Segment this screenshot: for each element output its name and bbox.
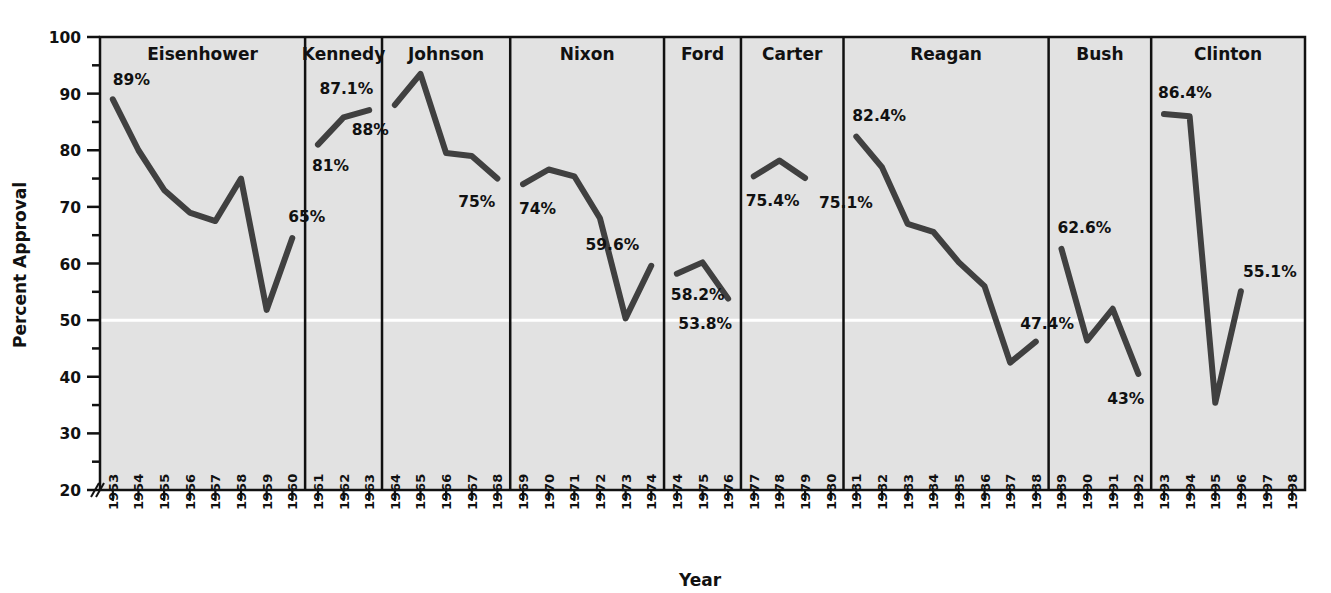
x-tick-label-1981: 1981 [849, 474, 864, 510]
x-tick-label-1959: 1959 [260, 474, 275, 510]
point-label-nixon-1: 59.6% [585, 236, 639, 254]
x-tick-label-1971: 1971 [567, 474, 582, 510]
x-tick-label-1963: 1963 [362, 474, 377, 510]
panel-title-bush: Bush [1076, 44, 1123, 64]
panel-background-carter [741, 37, 844, 490]
x-tick-label-1960: 1960 [285, 474, 300, 510]
x-tick-label-1992: 1992 [1131, 474, 1146, 510]
point-label-bush-1: 43% [1107, 390, 1145, 408]
x-tick-label-1980: 1980 [824, 474, 839, 510]
panel-background-eisenhower [100, 37, 305, 490]
x-tick-label-1984: 1984 [926, 474, 941, 510]
x-tick-label-1976: 1976 [721, 474, 736, 510]
x-tick-label-1968: 1968 [490, 474, 505, 510]
point-label-nixon-0: 74% [519, 200, 557, 218]
x-tick-label-1967: 1967 [465, 474, 480, 510]
x-tick-label-1965: 1965 [413, 474, 428, 510]
x-tick-label-1961: 1961 [311, 474, 326, 510]
x-tick-label-1977: 1977 [747, 474, 762, 510]
x-tick-label-1962: 1962 [337, 474, 352, 510]
x-tick-label-1982: 1982 [875, 474, 890, 510]
panel-title-kennedy: Kennedy [302, 44, 385, 64]
x-axis-title: Year [678, 570, 722, 590]
x-tick-label-1969: 1969 [516, 474, 531, 510]
x-tick-label-1988: 1988 [1029, 474, 1044, 510]
panel-title-ford: Ford [681, 44, 724, 64]
x-tick-label-1956: 1956 [183, 474, 198, 510]
x-tick-label-1973: 1973 [619, 474, 634, 510]
panel-title-johnson: Johnson [407, 44, 484, 64]
chart-root: 2030405060708090100 19531954195519561957… [0, 0, 1331, 593]
x-tick-label-1975: 1975 [696, 474, 711, 510]
point-label-kennedy-0: 87.1% [319, 80, 373, 98]
y-tick-label: 20 [59, 482, 81, 500]
point-label-clinton-1: 55.1% [1243, 263, 1297, 281]
point-label-bush-0: 62.6% [1057, 219, 1111, 237]
panel-title-nixon: Nixon [560, 44, 615, 64]
panel-titles: EisenhowerKennedyJohnsonNixonFordCarterR… [147, 44, 1262, 64]
x-tick-label-1979: 1979 [798, 474, 813, 510]
x-tick-label-1990: 1990 [1080, 474, 1095, 510]
point-label-clinton-0: 86.4% [1158, 84, 1212, 102]
panel-title-clinton: Clinton [1194, 44, 1262, 64]
panel-title-carter: Carter [762, 44, 823, 64]
x-tick-label-1974: 1974 [644, 474, 659, 510]
x-tick-label-1987: 1987 [1003, 474, 1018, 510]
x-tick-label-1983: 1983 [901, 474, 916, 510]
y-axis: 2030405060708090100 [49, 29, 104, 500]
x-tick-label-1994: 1994 [1183, 474, 1198, 510]
x-tick-label-1970: 1970 [542, 474, 557, 510]
point-label-ford-0: 58.2% [671, 286, 725, 304]
x-tick-label-1954: 1954 [131, 474, 146, 510]
x-tick-label-1964: 1964 [388, 474, 403, 510]
x-tick-label-1998: 1998 [1285, 474, 1300, 510]
x-tick-label-1985: 1985 [952, 474, 967, 510]
x-tick-label-1957: 1957 [208, 474, 223, 510]
approval-small-multiples-chart: 2030405060708090100 19531954195519561957… [0, 0, 1331, 593]
y-tick-label: 40 [59, 369, 81, 387]
y-tick-label: 100 [49, 29, 82, 47]
point-label-johnson-1: 75% [458, 193, 496, 211]
y-tick-label: 70 [59, 199, 81, 217]
x-tick-label-1986: 1986 [978, 474, 993, 510]
panel-background-kennedy [305, 37, 382, 490]
x-tick-label-1997: 1997 [1260, 474, 1275, 510]
panel-background-johnson [382, 37, 510, 490]
x-tick-label-1966: 1966 [439, 474, 454, 510]
x-tick-label-1953: 1953 [106, 474, 121, 510]
y-tick-label: 90 [59, 86, 81, 104]
panel-title-reagan: Reagan [910, 44, 982, 64]
y-tick-label: 60 [59, 256, 81, 274]
point-label-eisenhower-1: 65% [288, 208, 326, 226]
y-axis-title: Percent Approval [10, 182, 30, 348]
x-tick-label-1978: 1978 [772, 474, 787, 510]
panel-background-reagan [844, 37, 1049, 490]
panel-background-nixon [510, 37, 664, 490]
x-tick-label-1993: 1993 [1157, 474, 1172, 510]
point-label-kennedy-1: 81% [312, 157, 350, 175]
x-tick-label-1955: 1955 [157, 474, 172, 510]
x-tick-label-1995: 1995 [1208, 474, 1223, 510]
x-tick-label-1989: 1989 [1054, 474, 1069, 510]
point-label-carter-0: 75.4% [746, 192, 800, 210]
point-label-carter-1: 75.1% [819, 194, 873, 212]
point-label-reagan-0: 82.4% [852, 107, 906, 125]
x-tick-label-1991: 1991 [1106, 474, 1121, 510]
panel-title-eisenhower: Eisenhower [147, 44, 258, 64]
point-label-johnson-0: 88% [352, 121, 390, 139]
x-tick-label-1996: 1996 [1234, 474, 1249, 510]
x-tick-label-1958: 1958 [234, 474, 249, 510]
x-tick-label-1972: 1972 [593, 474, 608, 510]
x-tick-label-1974: 1974 [670, 474, 685, 510]
y-tick-label: 80 [59, 142, 81, 160]
point-label-eisenhower-0: 89% [113, 71, 151, 89]
y-tick-label: 30 [59, 425, 81, 443]
point-label-ford-1: 53.8% [678, 315, 732, 333]
y-tick-label: 50 [59, 312, 81, 330]
point-label-reagan-1: 47.4% [1020, 315, 1074, 333]
